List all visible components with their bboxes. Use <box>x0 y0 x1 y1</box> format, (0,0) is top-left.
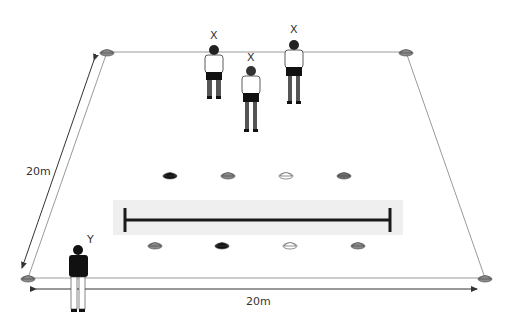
cone-icon <box>279 173 293 180</box>
drill-diagram: 20m 20m X <box>0 0 509 327</box>
cone-icon <box>163 173 177 180</box>
bottom-cone-row <box>148 243 365 250</box>
cone-icon <box>283 243 297 250</box>
cone-icon <box>148 243 162 250</box>
player-x-1 <box>205 45 223 99</box>
cone-icon <box>351 243 365 250</box>
cone-icon <box>399 50 413 57</box>
top-cone-row <box>163 173 351 180</box>
cone-icon <box>478 276 492 283</box>
cone-icon <box>21 276 35 283</box>
cone-icon <box>221 173 235 180</box>
player-y-label: Y <box>86 233 94 246</box>
player-x-2 <box>242 66 260 132</box>
cone-icon <box>215 243 229 250</box>
player-x-label: X <box>290 23 298 36</box>
cone-icon <box>100 50 114 57</box>
cone-icon <box>337 173 351 180</box>
depth-label: 20m <box>26 165 51 178</box>
player-x-3 <box>285 40 303 104</box>
center-band <box>113 200 403 235</box>
depth-measure-arrow <box>22 60 94 268</box>
player-x-label: X <box>247 51 255 64</box>
width-label: 20m <box>246 295 271 308</box>
player-x-label: X <box>210 29 218 42</box>
